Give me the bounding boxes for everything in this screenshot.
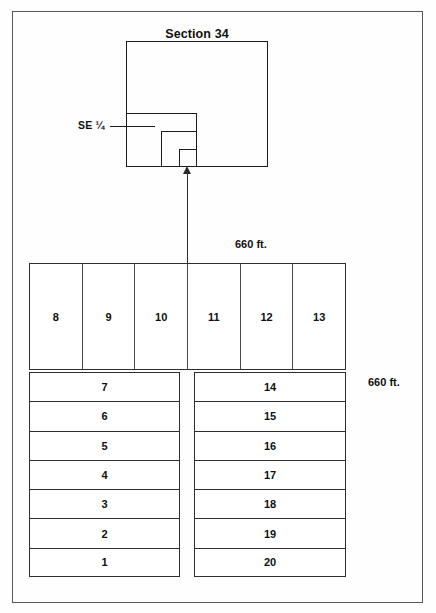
diagram-page: Section 34 SE ¼ 660 ft. 660 ft. 8 9 10 1… (0, 0, 436, 613)
lot-number: 9 (105, 311, 111, 323)
lot-number: 11 (208, 311, 220, 323)
lot-number: 8 (53, 311, 59, 323)
dimension-label-top: 660 ft. (235, 238, 267, 250)
lot-cell[interactable]: 8 (30, 264, 83, 369)
lot-cell[interactable]: 20 (194, 548, 346, 577)
lot-cell[interactable]: 10 (135, 264, 188, 369)
lot-number: 4 (101, 469, 107, 481)
lot-cell[interactable]: 12 (241, 264, 294, 369)
lot-number: 1 (101, 556, 107, 568)
lot-number: 3 (101, 498, 107, 510)
lot-cell[interactable]: 7 (29, 372, 180, 401)
lot-cell[interactable]: 4 (29, 460, 180, 489)
lot-number: 2 (101, 528, 107, 540)
lot-number: 12 (260, 311, 272, 323)
lot-cell[interactable]: 6 (29, 401, 180, 430)
lot-number: 13 (313, 311, 325, 323)
lot-cell[interactable]: 9 (83, 264, 136, 369)
lot-cell[interactable]: 11 (188, 264, 241, 369)
southeast-quarter-label: SE ¼ (78, 119, 104, 131)
lot-strip-row: 8 9 10 11 12 13 (29, 263, 346, 370)
lot-cell[interactable]: 15 (194, 401, 346, 430)
lot-number: 7 (101, 381, 107, 393)
lot-cell[interactable]: 13 (293, 264, 345, 369)
lot-cell[interactable]: 5 (29, 431, 180, 460)
lot-cell[interactable]: 16 (194, 431, 346, 460)
lot-number: 17 (264, 469, 276, 481)
lot-cell[interactable]: 18 (194, 489, 346, 518)
lot-number: 14 (264, 381, 276, 393)
lot-cell[interactable]: 19 (194, 518, 346, 547)
southeast-quarter-leader-line (110, 126, 155, 127)
lot-number: 10 (155, 311, 167, 323)
lot-number: 20 (264, 556, 276, 568)
lot-cell[interactable]: 17 (194, 460, 346, 489)
lot-number: 5 (101, 440, 107, 452)
lot-cell[interactable]: 2 (29, 518, 180, 547)
lot-cell[interactable]: 14 (194, 372, 346, 401)
lot-number: 15 (264, 410, 276, 422)
lot-cell[interactable]: 1 (29, 548, 180, 577)
lot-cell[interactable]: 3 (29, 489, 180, 518)
lot-number: 16 (264, 440, 276, 452)
arrow-stem-line (187, 171, 188, 264)
lot-stack-right: 14 15 16 17 18 19 20 (194, 372, 346, 577)
lot-number: 6 (101, 410, 107, 422)
quarter-quarter-quarter-square (179, 149, 197, 167)
lot-number: 19 (264, 528, 276, 540)
lot-stack-left: 7 6 5 4 3 2 1 (29, 372, 180, 577)
section-title: Section 34 (126, 27, 268, 41)
lot-number: 18 (264, 498, 276, 510)
dimension-label-right: 660 ft. (368, 376, 400, 388)
